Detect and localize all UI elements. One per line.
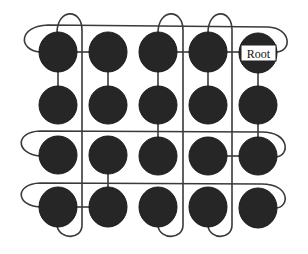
node-r0-c0 bbox=[39, 32, 77, 72]
node-r3-c4 bbox=[239, 188, 277, 228]
node-r3-c1 bbox=[89, 187, 127, 227]
mesh-network-diagram: Root bbox=[0, 0, 308, 254]
node-r1-c1 bbox=[89, 86, 127, 124]
root-label-text: Root bbox=[247, 47, 271, 61]
node-r2-c4 bbox=[239, 137, 277, 175]
node-r2-c3 bbox=[189, 137, 227, 175]
node-r1-c3 bbox=[189, 86, 227, 124]
node-r0-c1 bbox=[89, 32, 127, 72]
node-r2-c1 bbox=[89, 136, 127, 174]
node-r1-c2 bbox=[139, 86, 177, 124]
node-r3-c0 bbox=[39, 187, 77, 227]
node-r3-c3 bbox=[189, 187, 227, 227]
node-r1-c4 bbox=[239, 86, 277, 124]
node-r2-c0 bbox=[39, 136, 77, 174]
node-r0-c3 bbox=[189, 32, 227, 72]
node-r0-c2 bbox=[139, 32, 177, 72]
root-label: Root bbox=[241, 45, 276, 61]
node-r3-c2 bbox=[139, 187, 177, 227]
node-r2-c2 bbox=[139, 137, 177, 175]
node-r1-c0 bbox=[39, 86, 77, 124]
